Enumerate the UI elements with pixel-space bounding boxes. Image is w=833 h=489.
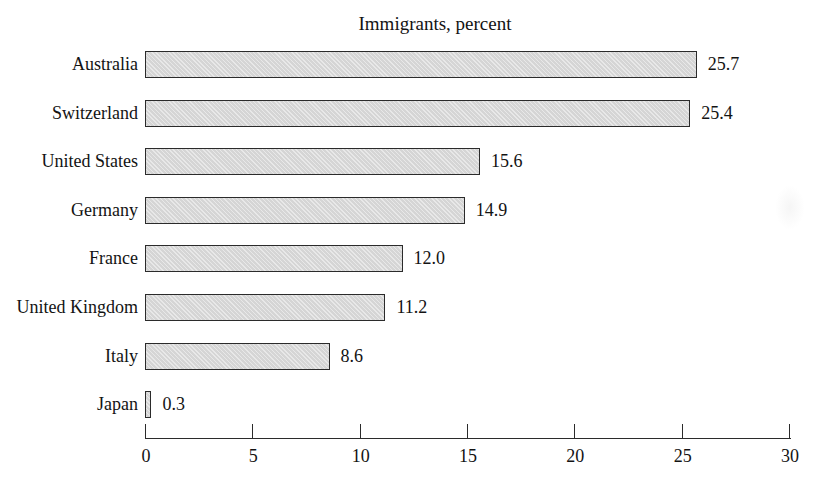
bar <box>145 100 690 127</box>
axis-tick <box>360 424 361 438</box>
category-label: Germany <box>71 197 138 224</box>
axis-tick <box>467 424 468 438</box>
axis-tick <box>789 424 790 438</box>
bar <box>145 245 403 272</box>
bar-chart: Immigrants, percent Australia25.7Switzer… <box>0 0 833 489</box>
scan-smudge-artifact <box>775 185 805 230</box>
category-label: Italy <box>105 343 138 370</box>
category-label: Australia <box>72 51 138 78</box>
bar <box>145 148 480 175</box>
axis-tick-label: 0 <box>142 446 151 467</box>
category-label: Japan <box>97 391 138 418</box>
axis-tick <box>574 424 575 438</box>
value-label: 14.9 <box>476 197 508 224</box>
value-label: 25.4 <box>701 100 733 127</box>
chart-title: Immigrants, percent <box>358 13 511 35</box>
x-axis-line <box>145 438 791 439</box>
axis-tick-label: 10 <box>352 446 370 467</box>
axis-tick-label: 25 <box>674 446 692 467</box>
value-label: 8.6 <box>341 343 364 370</box>
axis-tick <box>145 424 146 438</box>
bar <box>145 391 151 418</box>
value-label: 12.0 <box>414 245 446 272</box>
bar <box>145 343 330 370</box>
bar <box>145 197 465 224</box>
value-label: 25.7 <box>708 51 740 78</box>
axis-tick-label: 15 <box>459 446 477 467</box>
axis-tick <box>252 424 253 438</box>
category-label: United Kingdom <box>17 294 139 321</box>
bar <box>145 294 385 321</box>
value-label: 0.3 <box>162 391 185 418</box>
axis-tick <box>682 424 683 438</box>
category-label: Switzerland <box>52 100 138 127</box>
value-label: 11.2 <box>396 294 427 321</box>
value-label: 15.6 <box>491 148 523 175</box>
category-label: United States <box>42 148 139 175</box>
category-label: France <box>89 245 138 272</box>
axis-tick-label: 30 <box>781 446 799 467</box>
axis-tick-label: 5 <box>249 446 258 467</box>
axis-tick-label: 20 <box>566 446 584 467</box>
bar <box>145 51 697 78</box>
